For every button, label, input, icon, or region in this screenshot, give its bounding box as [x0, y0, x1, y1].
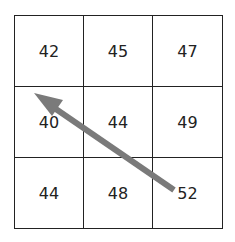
arrow-icon: [0, 0, 235, 242]
